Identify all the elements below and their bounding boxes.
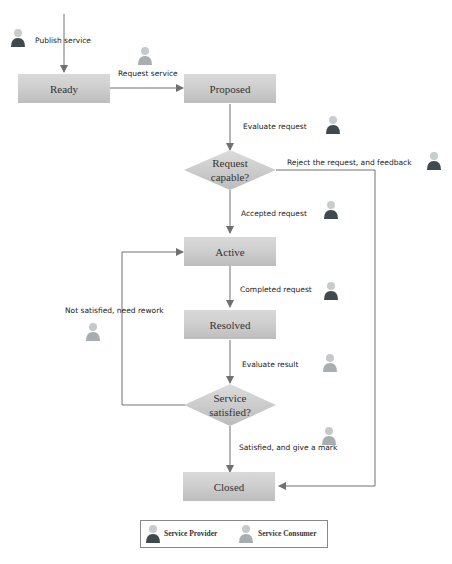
decision-request-capable-label: Request capable?	[185, 156, 275, 184]
service-consumer-icon	[321, 426, 337, 446]
label-evaluate-request: Evaluate request	[243, 122, 307, 131]
service-consumer-icon	[238, 524, 254, 544]
service-provider-icon	[10, 28, 26, 48]
service-provider-icon	[426, 151, 442, 171]
service-consumer-icon	[85, 322, 101, 342]
label-reject-request: Reject the request, and feedback	[287, 158, 412, 167]
service-provider-icon	[325, 115, 341, 135]
legend: Service Provider Service Consumer	[140, 520, 328, 548]
decision-label-line: Request	[185, 156, 275, 170]
label-completed-request: Completed request	[240, 285, 312, 294]
legend-provider-label: Service Provider	[164, 529, 217, 538]
state-closed: Closed	[183, 472, 275, 501]
label-accepted-request: Accepted request	[241, 209, 307, 218]
label-not-satisfied: Not satisfied, need rework	[65, 306, 164, 315]
service-provider-icon	[323, 281, 339, 301]
edge-rework	[122, 252, 185, 405]
label-publish-service: Publish service	[35, 36, 91, 45]
state-proposed: Proposed	[184, 74, 276, 103]
service-consumer-icon	[137, 46, 153, 66]
state-active: Active	[184, 237, 276, 266]
decision-label-line: Service	[185, 391, 275, 405]
state-resolved: Resolved	[184, 310, 276, 339]
service-consumer-icon	[322, 353, 338, 373]
service-provider-icon	[145, 524, 161, 544]
decision-label-line: satisfied?	[185, 405, 275, 419]
label-request-service: Request service	[118, 69, 178, 78]
decision-label-line: capable?	[185, 170, 275, 184]
decision-service-satisfied-label: Service satisfied?	[185, 391, 275, 419]
label-evaluate-result: Evaluate result	[242, 360, 298, 369]
legend-consumer-label: Service Consumer	[258, 529, 317, 538]
service-provider-icon	[323, 200, 339, 220]
state-ready: Ready	[18, 74, 110, 103]
